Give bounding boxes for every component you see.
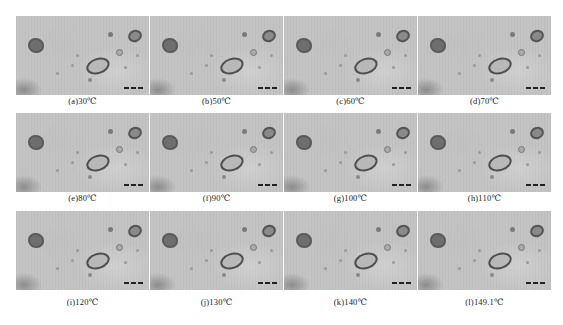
particle [538, 54, 541, 57]
scale-bar [526, 282, 545, 284]
particle [205, 259, 208, 262]
particle [88, 273, 92, 277]
micrograph-image [16, 16, 149, 95]
particle [526, 163, 529, 166]
scale-bar [392, 87, 411, 89]
fluid-inclusion-right [394, 28, 411, 44]
particle [344, 249, 347, 252]
fluid-inclusion-right [126, 28, 143, 44]
fluid-inclusion-main [486, 152, 514, 175]
fluid-inclusion-left [28, 233, 44, 248]
particle [473, 64, 476, 67]
fluid-inclusion-left [296, 38, 312, 53]
particle [116, 244, 123, 251]
panel-caption: (j)130℃ [150, 297, 283, 307]
particle [404, 54, 407, 57]
fluid-inclusion-right [260, 223, 277, 239]
particle [392, 261, 395, 264]
particle [270, 151, 273, 154]
particle [108, 32, 113, 37]
particle [205, 64, 208, 67]
particle [56, 169, 59, 172]
fluid-inclusion-main [84, 250, 112, 273]
fluid-inclusion-right [260, 125, 277, 141]
fluid-inclusion-left [162, 38, 178, 53]
particle [356, 175, 360, 179]
panel-caption: (k)140℃ [284, 297, 417, 307]
particle [478, 54, 481, 57]
panel-caption: (d)70℃ [418, 96, 551, 106]
particle [490, 78, 494, 82]
particle [210, 54, 213, 57]
particle [473, 259, 476, 262]
scale-bar [258, 282, 277, 284]
micrograph-image [16, 211, 149, 290]
particle [384, 244, 391, 251]
panel-caption: (f)90℃ [150, 193, 283, 203]
micrograph-image [418, 16, 551, 95]
particle [356, 78, 360, 82]
particle [258, 163, 261, 166]
particle [250, 49, 257, 56]
particle [404, 249, 407, 252]
particle [270, 54, 273, 57]
particle [339, 161, 342, 164]
panel-caption: (c)60℃ [284, 96, 417, 106]
particle [210, 151, 213, 154]
particle [242, 32, 247, 37]
fluid-inclusion-right [126, 125, 143, 141]
panel-caption: (g)100℃ [284, 193, 417, 203]
particle [376, 227, 381, 232]
particle [210, 249, 213, 252]
particle [392, 66, 395, 69]
micrograph-image [418, 211, 551, 290]
fluid-inclusion-left [162, 135, 178, 150]
particle [473, 161, 476, 164]
particle [526, 66, 529, 69]
fluid-inclusion-main [352, 250, 380, 273]
particle [526, 261, 529, 264]
micrograph-image [150, 211, 283, 290]
fluid-inclusion-left [296, 135, 312, 150]
panel-caption: (l)149.1℃ [418, 297, 551, 307]
particle [490, 175, 494, 179]
fluid-inclusion-main [218, 152, 246, 175]
panel-caption: (i)120℃ [16, 297, 149, 307]
fluid-inclusion-main [218, 55, 246, 78]
panel-caption: (e)80℃ [16, 193, 149, 203]
particle [490, 273, 494, 277]
scale-bar [526, 87, 545, 89]
particle [376, 32, 381, 37]
particle [339, 259, 342, 262]
particle [71, 259, 74, 262]
particle [518, 49, 525, 56]
fluid-inclusion-right [528, 28, 545, 44]
particle [205, 161, 208, 164]
particle [392, 163, 395, 166]
micrograph-image [150, 113, 283, 192]
particle [344, 54, 347, 57]
fluid-inclusion-left [296, 233, 312, 248]
fluid-inclusion-left [430, 135, 446, 150]
fluid-inclusion-main [84, 55, 112, 78]
particle [108, 129, 113, 134]
particle [222, 78, 226, 82]
fluid-inclusion-right [126, 223, 143, 239]
micrograph-image [284, 211, 417, 290]
particle [136, 151, 139, 154]
particle [258, 66, 261, 69]
micrograph-image [284, 16, 417, 95]
particle [344, 151, 347, 154]
particle [250, 146, 257, 153]
particle [478, 151, 481, 154]
particle [458, 169, 461, 172]
particle [538, 151, 541, 154]
particle [108, 227, 113, 232]
particle [458, 72, 461, 75]
particle [190, 267, 193, 270]
particle [190, 72, 193, 75]
particle [124, 163, 127, 166]
particle [510, 227, 515, 232]
particle [518, 244, 525, 251]
particle [124, 261, 127, 264]
